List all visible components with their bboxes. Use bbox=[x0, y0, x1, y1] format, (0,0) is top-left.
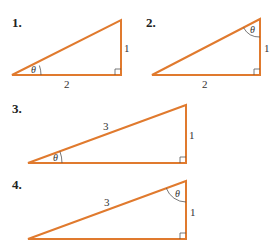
right-triangle bbox=[152, 19, 260, 75]
problem-number: 3. bbox=[12, 101, 22, 116]
problem-3: 3. θ 3 1 bbox=[12, 101, 195, 163]
side-label-vertical: 1 bbox=[124, 42, 130, 54]
angle-arc bbox=[39, 66, 41, 76]
problem-2: 2. θ 1 2 bbox=[146, 15, 270, 90]
triangle-exercises-diagram: 1. θ 1 2 2. θ 1 2 3. θ 3 1 4. θ 3 1 bbox=[0, 0, 280, 251]
angle-arc bbox=[60, 151, 62, 163]
angle-label: θ bbox=[53, 152, 58, 163]
right-triangle bbox=[28, 181, 186, 239]
side-label-vertical: 1 bbox=[264, 42, 270, 54]
problem-4: 4. θ 3 1 bbox=[12, 177, 196, 239]
angle-label: θ bbox=[175, 188, 180, 199]
right-triangle bbox=[28, 105, 186, 163]
problem-number: 4. bbox=[12, 177, 22, 192]
side-label-horizontal: 2 bbox=[64, 78, 70, 90]
side-label-hypotenuse: 3 bbox=[103, 120, 109, 132]
problem-number: 1. bbox=[12, 15, 22, 30]
angle-label: θ bbox=[31, 64, 36, 75]
problem-number: 2. bbox=[146, 15, 156, 30]
problem-1: 1. θ 1 2 bbox=[12, 15, 130, 90]
side-label-vertical: 1 bbox=[190, 206, 196, 218]
angle-label: θ bbox=[250, 24, 255, 35]
side-label-horizontal: 2 bbox=[202, 78, 208, 90]
side-label-hypotenuse: 3 bbox=[104, 196, 110, 208]
right-triangle bbox=[12, 20, 121, 75]
side-label-vertical: 1 bbox=[189, 129, 195, 141]
